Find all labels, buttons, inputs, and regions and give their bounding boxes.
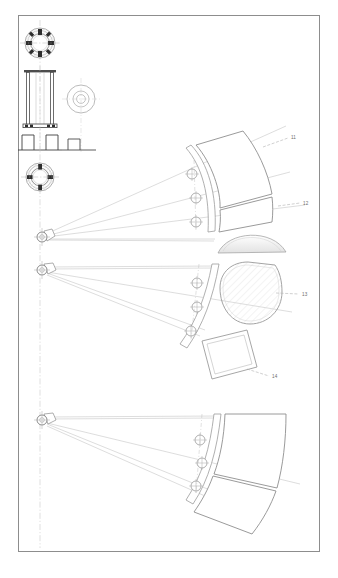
reference-label-13: 13	[302, 292, 308, 297]
reference-label-11: 11	[291, 135, 296, 140]
hatched-flattened-disc[interactable]	[220, 262, 282, 324]
drawing-sheet: 11 12	[0, 0, 338, 578]
reference-label-14: 14	[272, 374, 278, 379]
reference-label-12: 12	[303, 201, 309, 206]
drawing-canvas: 11 12	[0, 0, 338, 578]
